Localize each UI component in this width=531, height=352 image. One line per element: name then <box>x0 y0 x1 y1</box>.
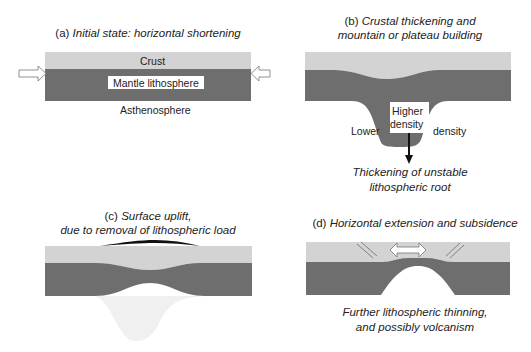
density-outer-label: density <box>433 125 466 137</box>
root-ghost <box>95 296 205 341</box>
panel-d-prefix: (d) <box>312 217 326 229</box>
panel-c-geometry <box>45 240 252 341</box>
panel-b-title-line2: mountain or plateau building <box>338 29 483 41</box>
panel-d-title-text: Horizontal extension and subsidence <box>330 217 518 229</box>
density-inner-label: density <box>390 118 423 130</box>
panel-c-title: (c) Surface uplift, due to removal of li… <box>0 209 296 237</box>
compression-arrow-left-icon <box>19 66 46 81</box>
asthenosphere-label: Asthenosphere <box>120 104 191 116</box>
panel-c-prefix: (c) <box>105 210 118 222</box>
panel-c-title-line1: Surface uplift, <box>121 210 191 222</box>
mantle-label: Mantle lithosphere <box>113 77 199 89</box>
panel-d-geometry <box>306 242 510 295</box>
panel-b-caption: Thickening of unstable lithospheric root <box>300 165 520 195</box>
panel-b-prefix: (b) <box>344 15 358 27</box>
panel-b-title-line1: Crustal thickening and <box>362 15 476 27</box>
panel-d-title: (d) Horizontal extension and subsidence <box>300 216 530 230</box>
panel-a-title-text: Initial state: horizontal shortening <box>73 27 241 39</box>
panel-c-title-line2: due to removal of lithospheric load <box>60 224 235 236</box>
panel-d-caption: Further lithospheric thinning, and possi… <box>300 305 530 335</box>
panel-b-caption-line2: lithospheric root <box>369 181 450 193</box>
panel-b-title: (b) Crustal thickening and mountain or p… <box>300 14 520 42</box>
panel-d-caption-line1: Further lithospheric thinning, <box>342 306 487 318</box>
panel-b-caption-line1: Thickening of unstable <box>352 166 467 178</box>
higher-label: Higher <box>392 105 423 117</box>
panel-d-caption-line2: and possibly volcanism <box>356 321 474 333</box>
down-arrow-head <box>405 155 413 164</box>
panel-a-title: (a) Initial state: horizontal shortening <box>0 26 296 40</box>
crust-label: Crust <box>140 55 165 67</box>
lower-label: Lower <box>351 125 380 137</box>
mantle-layer <box>306 258 510 295</box>
compression-arrow-right-icon <box>251 66 270 81</box>
panel-a-prefix: (a) <box>55 27 69 39</box>
uplift-profile <box>100 240 200 246</box>
